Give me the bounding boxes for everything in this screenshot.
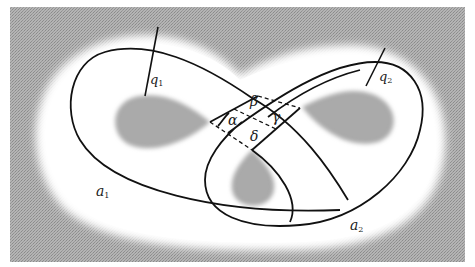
label-delta: δ	[250, 128, 258, 144]
surface-diagram: q1 q2 a1 a2 α β γ δ	[0, 0, 475, 267]
label-beta: β	[249, 93, 258, 109]
label-gamma: γ	[272, 109, 281, 125]
label-alpha: α	[228, 112, 238, 128]
